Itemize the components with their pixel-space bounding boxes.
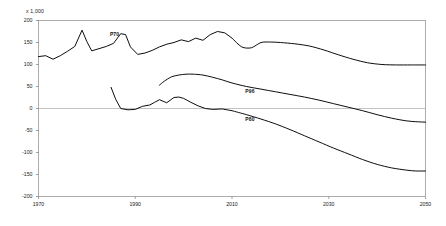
x-tick-label: 2010	[212, 201, 252, 207]
series-label-p96: P96	[245, 88, 254, 94]
y-tick-label: 150	[5, 39, 33, 45]
y-tick-label: -150	[5, 171, 33, 177]
series-line-p70	[39, 30, 426, 65]
y-tick-label: -100	[5, 149, 33, 155]
x-tick-label: 2030	[309, 201, 349, 207]
series-label-p70: P70	[110, 31, 119, 37]
series-label-p80: P80	[245, 116, 254, 122]
x-tick-label: 1990	[115, 201, 155, 207]
x-tick-label: 2050	[406, 201, 446, 207]
y-tick-label: -200	[5, 193, 33, 199]
y-tick-label: -50	[5, 127, 33, 133]
y-tick-label: 0	[5, 105, 33, 111]
x-tick-label: 1970	[19, 201, 59, 207]
line-chart-svg	[0, 0, 446, 226]
y-tick-label: 200	[5, 17, 33, 23]
y-tick-label: 50	[5, 83, 33, 89]
y-axis-unit-label: x 1,000	[26, 8, 44, 14]
y-tick-label: 100	[5, 61, 33, 67]
series-line-p80	[111, 87, 425, 171]
series-line-p96	[159, 74, 425, 122]
chart-container: x 1,000 200150100500-50-100-150-200 1970…	[0, 0, 446, 226]
